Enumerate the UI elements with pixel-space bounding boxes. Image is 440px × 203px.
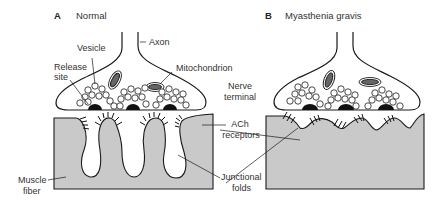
nerve-terminal-label-line1: Nerve	[220, 81, 260, 91]
release-sites-b	[302, 104, 394, 110]
panel-b-letter: B	[265, 11, 272, 21]
nerve-terminal-label-line2: terminal	[218, 92, 262, 102]
panel-a-letter: A	[54, 11, 61, 21]
junctional-folds-label-line1: Junctional	[221, 172, 262, 182]
ach-receptors-b	[283, 112, 394, 129]
junctional-folds-label-line2: folds	[232, 183, 251, 193]
ach-receptors-label-line2: receptors	[219, 130, 263, 140]
muscle-fiber-a	[54, 114, 213, 189]
release-sites-a	[88, 104, 177, 110]
panel-b-title: Myasthenia gravis	[285, 11, 362, 21]
vesicle-label: Vesicle	[77, 43, 106, 53]
ach-receptors-label-line1: ACh	[225, 119, 255, 129]
mitochondrion-icon	[321, 69, 381, 91]
panel-a-title: Normal	[76, 11, 107, 21]
release-site-label-line2: site	[54, 72, 68, 82]
muscle-fiber-label-line1: Muscle	[18, 175, 47, 185]
ach-receptors-a	[80, 112, 182, 129]
mitochondrion-icon	[106, 69, 164, 92]
mitochondrion-label: Mitochondrion	[176, 63, 233, 73]
axon-label: Axon	[149, 37, 170, 47]
release-site-label-line1: Release	[54, 62, 87, 72]
muscle-fiber-b	[266, 114, 424, 189]
muscle-fiber-label-line2: fiber	[23, 186, 41, 196]
